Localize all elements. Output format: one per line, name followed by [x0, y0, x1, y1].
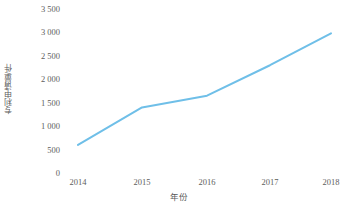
x-tick-label: 2017 — [262, 178, 279, 187]
x-axis-title-label: 年份 — [170, 192, 188, 202]
x-tick-label: 2018 — [323, 178, 340, 187]
y-tick-label: 1 500 — [41, 98, 60, 107]
x-axis-title: 年份 — [0, 193, 348, 202]
y-tick-label: 2 500 — [41, 52, 60, 61]
data-series-line — [78, 33, 331, 145]
plot-area — [64, 0, 342, 180]
x-axis-tick-labels: 20142015201620172018 — [64, 178, 342, 194]
plot-svg — [64, 0, 342, 180]
y-tick-label: 500 — [47, 145, 60, 154]
x-tick-label: 2016 — [199, 178, 216, 187]
y-axis-tick-labels: 05001 0001 5002 0002 5003 0003 500 — [16, 0, 62, 180]
y-tick-label: 3 000 — [41, 28, 60, 37]
line-chart: 专利申请量/件 05001 0001 5002 0002 5003 0003 5… — [0, 0, 348, 216]
y-axis-title-label: 专利申请量/件 — [5, 64, 13, 114]
x-tick-label: 2015 — [134, 178, 151, 187]
y-tick-label: 0 — [56, 169, 60, 178]
x-tick-label: 2014 — [70, 178, 87, 187]
y-axis-title: 专利申请量/件 — [2, 0, 16, 178]
y-tick-label: 3 500 — [41, 5, 60, 14]
y-tick-label: 1 000 — [41, 122, 60, 131]
y-tick-label: 2 000 — [41, 75, 60, 84]
